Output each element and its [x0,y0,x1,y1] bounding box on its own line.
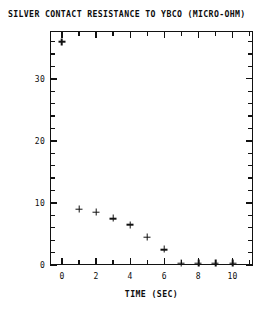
chart-title: SILVER CONTACT RESISTANCE TO YBCO (MICRO… [8,9,246,19]
x-axis-tick-label: 0 [59,272,64,281]
x-axis-title: TIME (SEC) [50,289,253,299]
x-axis-tick-label: 4 [128,272,133,281]
y-axis-tick-label: 30 [35,74,45,83]
plot-frame [50,31,253,265]
x-axis-tick-label: 2 [93,272,98,281]
y-axis-tick-label: 10 [35,198,45,207]
y-axis-tick-label: 0 [40,261,45,270]
chart-root: SILVER CONTACT RESISTANCE TO YBCO (MICRO… [0,0,279,313]
x-axis-tick-label: 10 [227,272,237,281]
y-axis-tick-label: 20 [35,136,45,145]
x-axis-tick-label: 8 [196,272,201,281]
y-axis-tick-labels: 0102030 [18,31,45,265]
x-axis-tick-label: 6 [162,272,167,281]
x-axis-tick-labels: 0246810 [50,272,253,284]
